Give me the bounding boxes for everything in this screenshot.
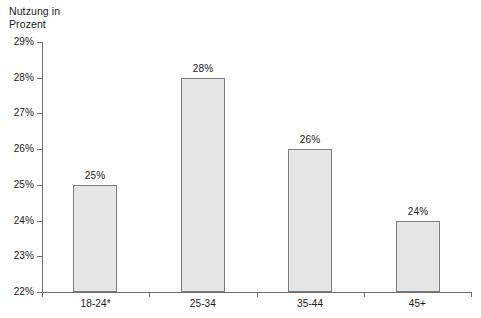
y-axis-tick <box>37 113 42 114</box>
bar <box>181 78 225 292</box>
x-axis-tick <box>42 292 43 297</box>
y-axis-tick <box>37 221 42 222</box>
y-axis-tick <box>37 42 42 43</box>
x-axis-tick-label: 25-34 <box>149 298 256 309</box>
x-axis-tick <box>471 292 472 297</box>
y-axis-tick <box>37 256 42 257</box>
bar <box>288 149 332 292</box>
bar-value-label: 26% <box>275 134 345 145</box>
y-axis-tick-label: 25% <box>4 179 34 190</box>
x-axis-tick <box>149 292 150 297</box>
x-axis-tick-label: 18-24* <box>42 298 149 309</box>
bar-value-label: 25% <box>60 170 130 181</box>
y-axis-tick-label: 23% <box>4 250 34 261</box>
x-axis-tick <box>364 292 365 297</box>
x-axis-tick-label: 45+ <box>364 298 471 309</box>
y-axis-tick-label: 24% <box>4 215 34 226</box>
y-axis-tick <box>37 185 42 186</box>
y-axis-tick-label: 29% <box>4 36 34 47</box>
y-axis-tick <box>37 149 42 150</box>
y-axis-title: Nutzung in Prozent <box>9 5 60 31</box>
bar <box>73 185 117 292</box>
bar-chart: Nutzung in Prozent 22%23%24%25%26%27%28%… <box>0 0 481 318</box>
x-axis-tick-label: 35-44 <box>257 298 364 309</box>
x-axis-tick <box>257 292 258 297</box>
bar-value-label: 28% <box>168 63 238 74</box>
y-axis-tick <box>37 78 42 79</box>
y-axis-tick-label: 22% <box>4 286 34 297</box>
y-axis-tick-label: 27% <box>4 107 34 118</box>
y-axis-tick-label: 26% <box>4 143 34 154</box>
bar <box>396 221 440 292</box>
y-axis-line <box>42 42 43 293</box>
y-axis-tick-label: 28% <box>4 72 34 83</box>
bar-value-label: 24% <box>383 206 453 217</box>
